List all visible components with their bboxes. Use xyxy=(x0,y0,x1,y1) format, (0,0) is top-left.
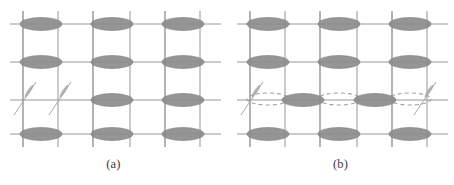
panel-b: (b) xyxy=(227,0,454,185)
atom-ellipse-2 xyxy=(162,18,204,31)
atom-ellipse-5 xyxy=(162,56,204,69)
atom-ellipse-9 xyxy=(318,128,360,141)
atom-ellipse-4 xyxy=(91,56,133,69)
atom-ellipse-1 xyxy=(318,18,360,31)
atom-ellipse-0 xyxy=(20,18,62,31)
atom-ellipse-7 xyxy=(162,94,204,107)
atom-ellipse-9 xyxy=(91,128,133,141)
panel-a-caption: (a) xyxy=(0,157,227,172)
atom-ellipse-8 xyxy=(247,128,289,141)
atom-ellipse-6 xyxy=(91,94,133,107)
atom-ellipse-1 xyxy=(91,18,133,31)
atom-ellipse-10 xyxy=(389,128,431,141)
slip-taper-1 xyxy=(58,84,69,98)
atom-ellipse-2 xyxy=(389,18,431,31)
atom-ellipse-4 xyxy=(318,56,360,69)
atom-ellipse-5 xyxy=(389,56,431,69)
atom-ellipse-3 xyxy=(20,56,62,69)
atom-ellipse-10 xyxy=(162,128,204,141)
dashed-atom-outline-1 xyxy=(318,93,360,105)
atom-ellipse-0 xyxy=(247,18,289,31)
slip-taper-0 xyxy=(250,84,261,98)
atom-ellipse-3 xyxy=(247,56,289,69)
atom-ellipse-7 xyxy=(354,94,396,107)
figure-root: (a) (b) xyxy=(0,0,454,185)
atom-ellipse-6 xyxy=(282,94,324,107)
atom-ellipse-8 xyxy=(20,128,62,141)
panel-b-caption: (b) xyxy=(227,157,454,172)
panel-a: (a) xyxy=(0,0,227,185)
slip-taper-0 xyxy=(23,84,34,98)
